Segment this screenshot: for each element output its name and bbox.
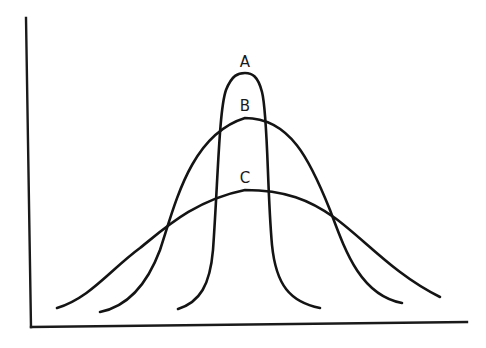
x-axis <box>31 322 467 327</box>
distribution-chart: A B C <box>0 0 486 348</box>
curve-c <box>57 190 440 308</box>
label-a: A <box>240 53 251 71</box>
label-c: C <box>240 169 250 187</box>
curve-b <box>100 118 402 312</box>
label-b: B <box>240 97 250 115</box>
y-axis <box>26 18 31 327</box>
